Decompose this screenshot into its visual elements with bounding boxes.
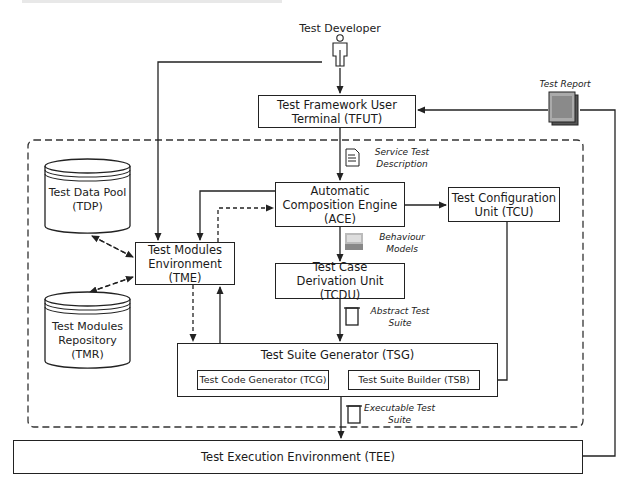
abstract-test-suite-label: Abstract Test Suite bbox=[365, 305, 435, 329]
tfut-box[interactable]: Test Framework User Terminal (TFUT) bbox=[258, 95, 416, 128]
ace-line1: Automatic bbox=[311, 184, 370, 198]
tcg-box[interactable]: Test Code Generator (TCG) bbox=[197, 370, 329, 390]
tee-box[interactable]: Test Execution Environment (TEE) bbox=[13, 440, 583, 474]
tfut-line1: Test Framework User bbox=[277, 98, 397, 112]
tdp-label: Test Data Pool (TDP) bbox=[45, 186, 130, 214]
tcdu-line2: Derivation Unit (TCDU) bbox=[276, 274, 404, 302]
test-report-label: Test Report bbox=[530, 78, 600, 90]
tme-line1: Test Modules bbox=[148, 243, 222, 257]
tsb-box[interactable]: Test Suite Builder (TSB) bbox=[348, 370, 480, 390]
tcu-line1: Test Configuration bbox=[452, 191, 556, 205]
test-developer-label: Test Developer bbox=[290, 22, 390, 35]
executable-test-suite-label: Executable Test Suite bbox=[362, 402, 437, 426]
document-icon bbox=[346, 149, 359, 166]
ace-line3: (ACE) bbox=[324, 212, 356, 226]
scroll-icon-executable bbox=[346, 406, 362, 423]
tme-line2: Environment bbox=[148, 257, 221, 271]
scroll-icon-abstract bbox=[344, 308, 360, 325]
tfut-line2: Terminal (TFUT) bbox=[292, 112, 382, 126]
tmr-label: Test Modules Repository (TMR) bbox=[45, 320, 130, 362]
report-stack-icon bbox=[549, 92, 578, 125]
ace-line2: Composition Engine bbox=[283, 198, 398, 212]
tme-box[interactable]: Test Modules Environment (TME) bbox=[135, 242, 235, 285]
tme-line3: (TME) bbox=[168, 271, 201, 285]
model-image-icon bbox=[345, 233, 363, 250]
tcu-line2: Unit (TCU) bbox=[475, 205, 534, 219]
tsg-box[interactable]: Test Suite Generator (TSG) Test Code Gen… bbox=[177, 343, 498, 397]
ace-box[interactable]: Automatic Composition Engine (ACE) bbox=[275, 182, 405, 227]
tcu-box[interactable]: Test Configuration Unit (TCU) bbox=[448, 187, 560, 222]
tsg-title: Test Suite Generator (TSG) bbox=[178, 348, 497, 362]
connector-layer bbox=[0, 0, 638, 494]
person-icon bbox=[333, 35, 347, 66]
behaviour-models-label: Behaviour Models bbox=[372, 231, 432, 255]
tcdu-box[interactable]: Test Case Derivation Unit (TCDU) bbox=[275, 263, 405, 299]
service-test-description-label: Service Test Description bbox=[362, 146, 442, 170]
tcdu-line1: Test Case bbox=[313, 260, 367, 274]
